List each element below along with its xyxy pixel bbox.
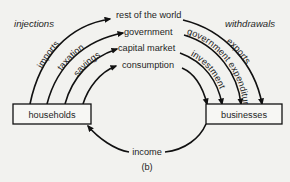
injections-title: injections <box>14 18 54 29</box>
households-label: households <box>29 110 76 120</box>
consumption-flow-arrow <box>83 66 116 104</box>
figure-caption: (b) <box>141 162 152 172</box>
businesses-label: businesses <box>221 110 267 120</box>
government-label: government <box>124 27 173 37</box>
capital-market-label: capital market <box>118 43 176 53</box>
rest-of-world-label: rest of the world <box>116 10 181 20</box>
consumption-to-business-arrow <box>182 68 207 104</box>
income-flow-arrow-left <box>88 126 129 152</box>
income-label: income <box>132 147 162 157</box>
consumption-label: consumption <box>122 60 174 70</box>
circular-flow-diagram: imports taxation savings exports governm… <box>0 0 290 182</box>
withdrawals-title: withdrawals <box>225 18 275 29</box>
income-flow-arrow-right <box>165 124 206 152</box>
